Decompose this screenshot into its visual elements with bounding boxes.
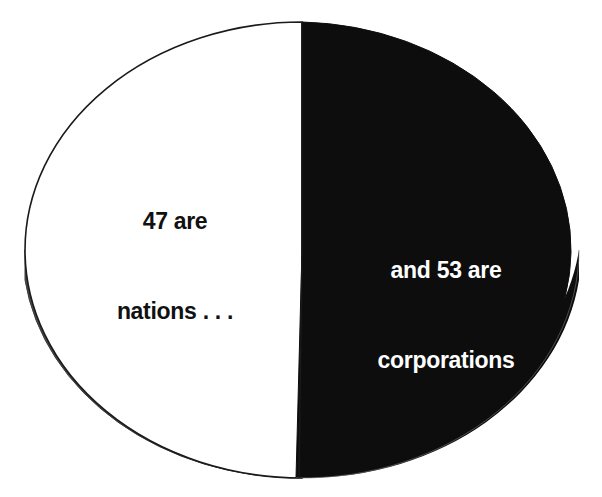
pie-chart-figure: 47 are nations . . . and 53 are corporat… — [0, 0, 602, 497]
pie-label-nations: 47 are nations . . . — [92, 146, 258, 386]
pie-label-nations-line1: 47 are — [92, 206, 258, 236]
pie-label-corporations-line1: and 53 are — [360, 255, 532, 285]
pie-label-corporations: and 53 are corporations — [360, 195, 532, 435]
pie-label-nations-line2: nations . . . — [92, 296, 258, 326]
pie-label-corporations-line2: corporations — [360, 345, 532, 375]
